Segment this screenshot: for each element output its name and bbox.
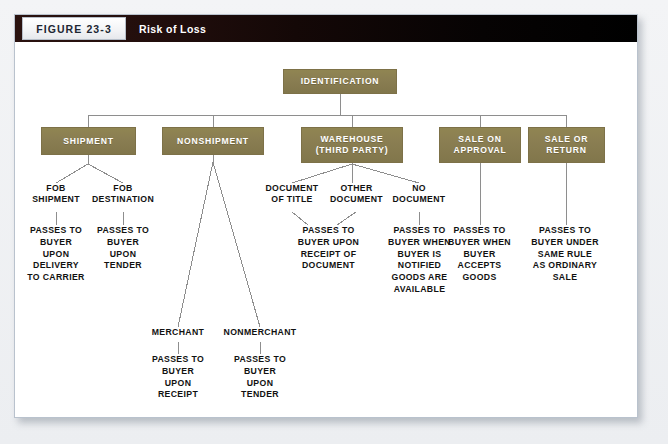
outcome-merchant: PASSES TO BUYER UPON RECEIPT — [138, 354, 218, 401]
node-nonshipment[interactable]: NONSHIPMENT — [162, 127, 264, 155]
node-sale-on-approval[interactable]: SALE ON APPROVAL — [439, 127, 521, 163]
figure-title: Risk of Loss — [139, 15, 206, 42]
figure-container: FIGURE 23-3 Risk of Loss — [14, 14, 638, 418]
label-no-document: NO DOCUMENT — [378, 183, 460, 206]
outcome-sale-or-return: PASSES TO BUYER UNDER SAME RULE AS ORDIN… — [510, 225, 620, 284]
node-sale-on-approval-label: SALE ON APPROVAL — [453, 134, 506, 156]
node-shipment[interactable]: SHIPMENT — [41, 127, 136, 155]
outcome-fob-destination: PASSES TO BUYER UPON TENDER — [83, 225, 163, 272]
figure-inner: FIGURE 23-3 Risk of Loss — [15, 15, 637, 417]
node-shipment-label: SHIPMENT — [63, 136, 113, 147]
figure-header: FIGURE 23-3 Risk of Loss — [15, 15, 637, 42]
node-sale-or-return-label: SALE OR RETURN — [545, 134, 588, 156]
figure-number-tag: FIGURE 23-3 — [22, 17, 126, 40]
node-sale-or-return[interactable]: SALE OR RETURN — [528, 127, 605, 163]
node-nonshipment-label: NONSHIPMENT — [177, 136, 249, 147]
diagram-canvas: IDENTIFICATION SHIPMENT NONSHIPMENT WARE… — [15, 42, 637, 417]
label-merchant: MERCHANT — [138, 327, 218, 338]
outcome-document: PASSES TO BUYER UPON RECEIPT OF DOCUMENT — [276, 225, 381, 272]
node-warehouse[interactable]: WAREHOUSE (THIRD PARTY) — [301, 127, 403, 163]
label-fob-destination: FOB DESTINATION — [79, 183, 167, 206]
page-background: FIGURE 23-3 Risk of Loss — [0, 0, 668, 444]
node-warehouse-label: WAREHOUSE (THIRD PARTY) — [316, 134, 389, 156]
outcome-nonmerchant: PASSES TO BUYER UPON TENDER — [220, 354, 300, 401]
node-identification-label: IDENTIFICATION — [301, 76, 380, 87]
node-identification[interactable]: IDENTIFICATION — [283, 69, 397, 94]
label-nonmerchant: NONMERCHANT — [212, 327, 308, 338]
